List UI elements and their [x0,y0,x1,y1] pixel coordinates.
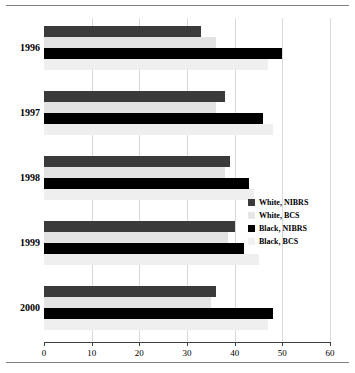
bar-group: 1998 [44,156,330,200]
bar [44,26,201,37]
chart-figure: 010203040506019961997199819992000 White,… [0,0,355,373]
bar [44,178,249,189]
bar [44,37,216,48]
bar [44,91,225,102]
bottom-rule [6,362,349,363]
bar [44,308,273,319]
legend-item: White, NIBRS [248,196,352,208]
bar-group: 1996 [44,26,330,70]
x-axis-tick-label: 20 [124,348,154,359]
x-axis-tick-label: 60 [315,348,345,359]
category-label-2000: 2000 [2,302,40,314]
bar [44,102,216,113]
bar [44,189,254,200]
bar [44,167,225,178]
x-axis-line [44,342,330,343]
bar [44,59,268,70]
x-axis-tick-label: 30 [172,348,202,359]
chart-legend: White, NIBRSWhite, BCSBlack, NIBRSBlack,… [248,196,352,248]
category-label-1997: 1997 [2,107,40,119]
bar [44,243,244,254]
bar [44,286,216,297]
top-rule [6,5,349,6]
bar [44,48,282,59]
x-axis-tick-label: 40 [220,348,250,359]
bar [44,124,273,135]
x-axis-tick-label: 0 [29,348,59,359]
legend-swatch-icon [248,238,255,245]
plot-area: 010203040506019961997199819992000 [44,18,330,342]
bar [44,319,268,330]
bar [44,156,230,167]
category-label-1998: 1998 [2,172,40,184]
legend-item: Black, NIBRS [248,222,352,234]
gridline [330,18,331,342]
legend-item: White, BCS [248,209,352,221]
legend-label: White, NIBRS [259,198,308,207]
bar-group: 2000 [44,286,330,330]
bar-group: 1997 [44,91,330,135]
x-axis-tick-label: 10 [77,348,107,359]
x-axis-tick [330,342,331,346]
legend-swatch-icon [248,199,255,206]
bar [44,254,259,265]
legend-swatch-icon [248,225,255,232]
bar [44,297,211,308]
legend-label: Black, BCS [259,237,298,246]
legend-label: White, BCS [259,211,299,220]
bar [44,221,235,232]
category-label-1996: 1996 [2,42,40,54]
x-axis-tick-label: 50 [267,348,297,359]
bar [44,232,228,243]
legend-item: Black, BCS [248,235,352,247]
bar [44,113,263,124]
category-label-1999: 1999 [2,237,40,249]
legend-label: Black, NIBRS [259,224,307,233]
legend-swatch-icon [248,212,255,219]
